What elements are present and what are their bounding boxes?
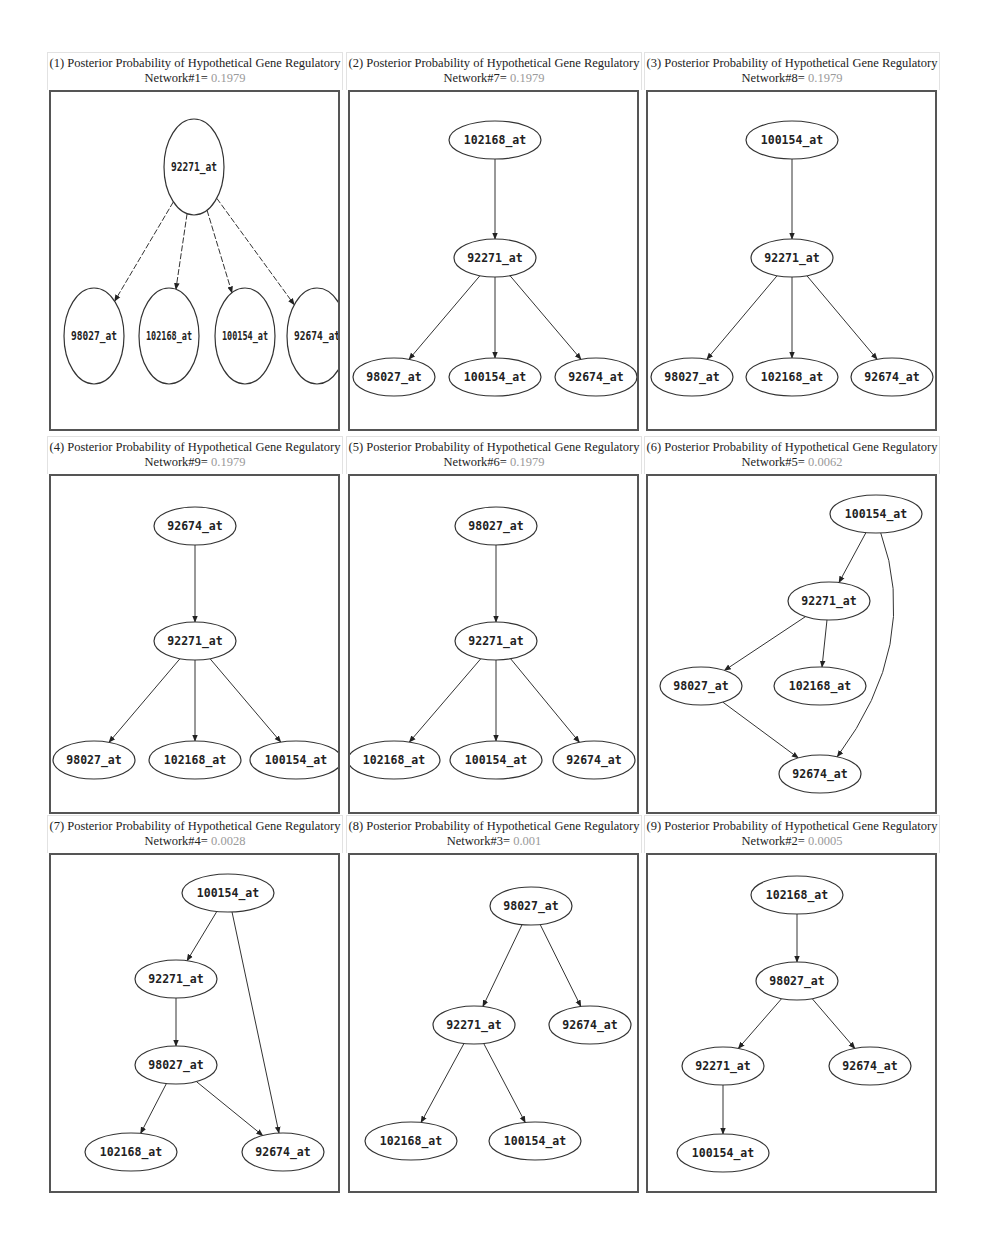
gene-node: 92674_at [779,755,861,793]
gene-node: 98027_at [135,1046,217,1084]
regulation-edge [707,276,777,360]
regulation-edge [484,1043,526,1122]
gene-label: 92674_at [842,1059,897,1074]
gene-label: 98027_at [503,899,558,914]
probability-value: 0.001 [513,834,541,848]
gene-node: 100154_at [250,741,338,779]
panel-9: (9) Posterior Probability of Hypothetica… [644,815,940,853]
regulation-edge [837,533,894,757]
probability-value: 0.0028 [211,834,245,848]
regulation-edge [723,702,798,758]
panel-title: (3) Posterior Probability of Hypothetica… [644,52,940,90]
gene-node: 92674_at [555,358,637,396]
gene-node: 98027_at [53,741,135,779]
gene-label: 92271_at [801,594,856,609]
network-graph: 102168_at98027_at92271_at92674_at100154_… [648,855,935,1191]
gene-node: 92271_at [751,239,833,277]
gene-node: 102168_at [751,876,843,914]
regulation-edge [196,1082,262,1136]
panel-6: (6) Posterior Probability of Hypothetica… [644,436,940,474]
panel-title: (1) Posterior Probability of Hypothetica… [47,52,343,90]
gene-label: 102168_at [100,1145,162,1160]
regulation-edge [511,659,580,742]
network-diagram: 98027_at92271_at92674_at102168_at100154_… [348,853,639,1193]
gene-node: 92674_at [287,288,338,384]
network-diagram: 92271_at98027_at102168_at100154_at92674_… [49,90,340,431]
network-graph: 92271_at98027_at102168_at100154_at92674_… [51,92,338,429]
gene-label: 98027_at [66,753,121,768]
regulation-edge [115,202,174,301]
gene-label: 92674_at [792,767,847,782]
gene-label: 100154_at [504,1134,566,1149]
gene-node: 92674_at [242,1133,324,1171]
gene-label: 102168_at [761,370,823,385]
gene-label: 102168_at [789,679,851,694]
probability-value: 0.1979 [510,455,544,469]
gene-node: 102168_at [774,667,866,705]
probability-value: 0.1979 [808,71,842,85]
regulation-edge [812,999,855,1049]
gene-node: 98027_at [490,887,572,925]
network-graph: 98027_at92271_at102168_at100154_at92674_… [350,476,637,812]
gene-node: 100154_at [182,874,274,912]
network-diagram: 100154_at92271_at98027_at102168_at92674_… [49,853,340,1193]
network-graph: 98027_at92271_at92674_at102168_at100154_… [350,855,637,1191]
network-diagram: 102168_at98027_at92271_at92674_at100154_… [646,853,937,1193]
regulation-edge [822,620,827,667]
gene-label: 92674_at [562,1018,617,1033]
gene-node: 92271_at [788,582,870,620]
gene-node: 98027_at [64,288,124,384]
gene-node: 102168_at [365,1122,457,1160]
gene-node: 92271_at [455,622,537,660]
gene-label: 92271_at [468,634,523,649]
regulation-edge [839,533,866,583]
gene-label: 102168_at [380,1134,442,1149]
regulation-edge [540,925,581,1007]
gene-label: 92674_at [255,1145,310,1160]
network-graph: 100154_at92271_at98027_at102168_at92674_… [51,855,338,1191]
network-graph: 100154_at92271_at98027_at102168_at92674_… [648,92,935,429]
regulation-edge [483,925,522,1007]
probability-value: 0.1979 [211,455,245,469]
regulation-edge [421,1043,464,1122]
gene-label: 102168_at [766,888,828,903]
gene-node: 92271_at [433,1006,515,1044]
network-diagram: 98027_at92271_at102168_at100154_at92674_… [348,474,639,814]
gene-node: 92271_at [135,960,217,998]
probability-value: 0.1979 [211,71,245,85]
panel-title: (9) Posterior Probability of Hypothetica… [644,815,940,853]
gene-label: 92674_at [294,329,338,344]
gene-label: 100154_at [692,1146,754,1161]
gene-label: 100154_at [761,133,823,148]
regulation-edge [176,214,187,290]
panel-title: (8) Posterior Probability of Hypothetica… [346,815,642,853]
gene-node: 100154_at [215,288,275,384]
gene-label: 98027_at [673,679,728,694]
gene-label: 92271_at [148,972,203,987]
gene-node: 102168_at [350,741,440,779]
gene-label: 92674_at [568,370,623,385]
gene-node: 102168_at [139,288,199,384]
gene-label: 98027_at [71,329,117,344]
regulation-edge [232,912,279,1133]
regulation-edge [210,659,281,742]
panel-8: (8) Posterior Probability of Hypothetica… [346,815,642,853]
gene-label: 92271_at [764,251,819,266]
gene-node: 98027_at [353,358,435,396]
gene-label: 92271_at [467,251,522,266]
gene-node: 100154_at [489,1122,581,1160]
panel-3: (3) Posterior Probability of Hypothetica… [644,52,940,90]
gene-label: 102168_at [363,753,425,768]
gene-node: 92271_at [154,622,236,660]
gene-node: 98027_at [651,358,733,396]
gene-label: 100154_at [265,753,327,768]
gene-label: 98027_at [769,974,824,989]
regulation-edge [217,198,294,304]
panel-title: (6) Posterior Probability of Hypothetica… [644,436,940,474]
regulation-edge [510,276,581,360]
gene-node: 98027_at [455,507,537,545]
regulation-edge [738,999,781,1049]
gene-node: 100154_at [830,495,922,533]
gene-node: 92271_at [454,239,536,277]
gene-node: 92674_at [154,507,236,545]
